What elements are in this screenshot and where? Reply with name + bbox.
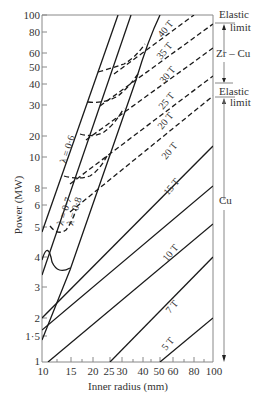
- y-tick-label: 100: [24, 9, 41, 21]
- lambda-curve-low: [42, 250, 70, 270]
- y-tick-label: 3: [35, 281, 41, 293]
- y-tick-label: 8: [35, 182, 41, 194]
- line-35T: [100, 24, 213, 106]
- label-7T: 7 T: [163, 298, 180, 315]
- label-25T: 25 T: [156, 90, 176, 111]
- line-20T: [42, 146, 213, 318]
- x-tick-label: 60: [168, 365, 180, 377]
- label-lambda-0.6: λ = 0·6: [57, 134, 76, 165]
- x-tick-label: 20: [88, 365, 100, 377]
- y-tick-label: 80: [29, 26, 41, 38]
- y-tick-label: 30: [29, 99, 41, 111]
- lambda-0.7-line: [42, 15, 131, 275]
- x-tick-label: 40: [138, 365, 150, 377]
- y-tick-label: 2: [35, 312, 41, 324]
- label-35T: 35 T: [154, 40, 174, 61]
- x-tick-label: 15: [66, 365, 78, 377]
- label-20T-dashed: 20 T: [155, 110, 175, 131]
- y-tick-label: 1·5: [25, 330, 40, 342]
- label-10T: 10 T: [160, 242, 180, 263]
- label-5T: 5 T: [159, 335, 176, 352]
- y-tick-label: 40: [29, 78, 41, 90]
- label-30T: 30 T: [157, 64, 177, 85]
- line-labels: 40 T 35 T 30 T 25 T 20 T 20 T 15 T 10 T …: [54, 18, 181, 352]
- label-15T: 15 T: [161, 176, 181, 197]
- y-tick-label: 4: [35, 251, 41, 263]
- lambda-arc: [64, 154, 108, 178]
- x-tick-label: 80: [189, 365, 201, 377]
- x-axis-title: Inner radius (mm): [88, 380, 168, 393]
- power-vs-radius-chart: 100 80 60 50 40 30 20 10 8 6 5 4 3 2 1·5…: [0, 0, 260, 399]
- limit-mid-label: limit: [230, 96, 251, 108]
- arrow-down-icon: [222, 355, 226, 362]
- limit-top-label: limit: [230, 21, 251, 33]
- x-tick-label: 25: [104, 365, 116, 377]
- y-tick-label: 10: [29, 151, 41, 163]
- line-40T: [114, 15, 194, 74]
- y-tick-label: 60: [29, 47, 41, 59]
- zr-cu-label: Zr – Cu: [216, 47, 251, 59]
- arrow-up-icon: [222, 24, 226, 30]
- lambda-arc: [80, 108, 124, 136]
- line-20T-dashed: [70, 96, 213, 212]
- x-tick-label: 100: [206, 365, 223, 377]
- x-tick-label: 30: [117, 365, 129, 377]
- arrow-down-icon: [222, 78, 226, 83]
- x-tick-label: 10: [38, 365, 50, 377]
- label-20T: 20 T: [159, 140, 179, 161]
- y-tick-label: 6: [35, 199, 41, 211]
- y-tick-label: 5: [35, 221, 41, 233]
- label-40T: 40 T: [155, 18, 175, 39]
- elastic-limit-top-label: Elastic: [219, 8, 249, 20]
- cu-label: Cu: [219, 194, 232, 206]
- y-axis-title: Power (MW): [12, 175, 25, 234]
- line-30T: [86, 48, 213, 140]
- x-tick-label: 50: [154, 365, 166, 377]
- material-annotations: Elastic limit Zr – Cu Elastic limit Cu: [215, 8, 251, 362]
- y-tick-label: 50: [29, 61, 41, 73]
- y-tick-label: 20: [29, 130, 41, 142]
